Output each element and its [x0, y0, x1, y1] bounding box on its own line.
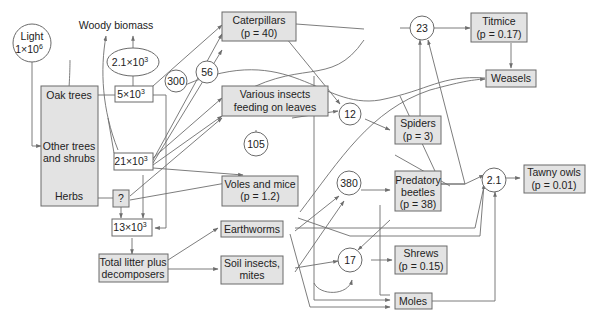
svg-text:2.1×103: 2.1×103 [112, 56, 148, 68]
other-trees-label-2: and shrubs [43, 152, 95, 164]
flow-2-1: 2.1 [482, 168, 506, 192]
tawny-owls-node: Tawny owls (p = 0.01) [524, 165, 585, 193]
shrews-node: Shrews (p = 0.15) [395, 246, 447, 274]
earthworms-node: Earthworms [221, 221, 283, 237]
svg-text:(p = 40): (p = 40) [241, 27, 277, 39]
food-web-diagram: Light 1×106 Woody biomass 2.1×103 Oak tr… [0, 0, 600, 326]
woody-biomass-label: Woody biomass [79, 19, 154, 31]
titmice-node: Titmice (p = 0.17) [471, 13, 527, 42]
svg-text:(p = 0.15): (p = 0.15) [398, 260, 443, 272]
svg-text:beetles: beetles [401, 186, 435, 198]
svg-text:feeding on leaves: feeding on leaves [234, 101, 316, 113]
svg-text:Shrews: Shrews [403, 247, 438, 259]
svg-text:Titmice: Titmice [482, 15, 516, 27]
svg-text:Earthworms: Earthworms [224, 223, 280, 235]
svg-text:300: 300 [167, 75, 185, 87]
svg-text:23: 23 [416, 22, 428, 34]
herbs-production-node: ? [113, 190, 129, 207]
svg-text:Various insects: Various insects [240, 88, 310, 100]
predatory-beetles-node: Predatory beetles (p = 38) [395, 171, 442, 211]
svg-text:(p = 3): (p = 3) [403, 130, 434, 142]
total-litter-node: Total litter plus decomposers [99, 254, 168, 282]
svg-text:?: ? [118, 192, 124, 204]
svg-text:Moles: Moles [399, 295, 427, 307]
woody-biomass-value-node: 2.1×103 [107, 48, 159, 76]
flow-17: 17 [338, 248, 362, 272]
flow-56: 56 [196, 61, 218, 83]
svg-text:Voles and mice: Voles and mice [224, 178, 295, 190]
litter-production-node: 13×103 [112, 219, 152, 236]
svg-text:Weasels: Weasels [491, 72, 531, 84]
svg-text:Spiders: Spiders [400, 117, 436, 129]
svg-text:56: 56 [201, 66, 213, 78]
voles-mice-node: Voles and mice (p = 1.2) [222, 176, 298, 206]
light-node: Light 1×106 [13, 24, 51, 62]
svg-text:(p = 0.01): (p = 0.01) [531, 179, 576, 191]
svg-text:1×106: 1×106 [15, 43, 43, 55]
flow-12: 12 [339, 103, 361, 125]
svg-text:(p = 1.2): (p = 1.2) [240, 190, 279, 202]
spiders-node: Spiders (p = 3) [395, 116, 441, 144]
soil-insects-node: Soil insects, mites [221, 256, 283, 284]
svg-text:21×103: 21×103 [114, 155, 148, 167]
light-value: 1×10 [15, 43, 39, 55]
other-trees-label-1: Other trees [43, 140, 96, 152]
producers-column: Oak trees Other trees and shrubs Herbs [41, 86, 98, 206]
light-label: Light [21, 30, 44, 42]
caterpillars-node: Caterpillars (p = 40) [222, 12, 296, 41]
other-trees-production-node: 21×103 [114, 153, 153, 170]
svg-text:Total litter plus: Total litter plus [99, 256, 166, 268]
svg-text:105: 105 [247, 138, 265, 150]
herbs-label: Herbs [55, 190, 83, 202]
svg-text:Tawny owls: Tawny owls [527, 166, 581, 178]
oak-production-node: 5×103 [115, 86, 153, 102]
svg-text:Caterpillars: Caterpillars [232, 14, 285, 26]
oak-trees-label: Oak trees [46, 89, 92, 101]
svg-text:2.1: 2.1 [487, 174, 502, 186]
svg-text:13×103: 13×103 [113, 221, 147, 233]
svg-text:decomposers: decomposers [101, 268, 164, 280]
svg-text:5×103: 5×103 [117, 88, 145, 100]
svg-text:12: 12 [344, 108, 356, 120]
flow-380: 380 [337, 171, 361, 195]
moles-node: Moles [395, 293, 432, 309]
svg-text:mites: mites [239, 269, 264, 281]
svg-text:17: 17 [344, 254, 356, 266]
svg-text:Predatory: Predatory [395, 174, 441, 186]
flow-300: 300 [165, 70, 187, 92]
flow-105: 105 [244, 132, 268, 156]
svg-text:Soil insects,: Soil insects, [224, 257, 280, 269]
svg-text:(p = 0.17): (p = 0.17) [476, 28, 521, 40]
weasels-node: Weasels [486, 70, 536, 87]
flow-23: 23 [410, 16, 434, 40]
svg-text:380: 380 [340, 177, 358, 189]
svg-text:(p = 38): (p = 38) [400, 198, 436, 210]
various-insects-node: Various insects feeding on leaves [222, 86, 328, 116]
